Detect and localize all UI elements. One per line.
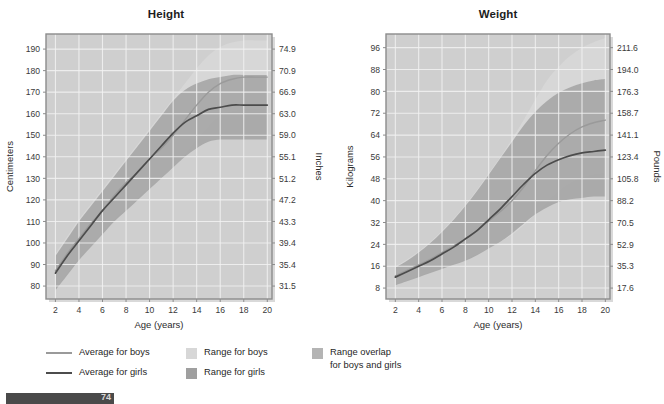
chart-panel-height: Height 246810121416182080901001101201301… [0,0,332,340]
svg-text:16: 16 [554,305,564,315]
svg-text:64: 64 [370,130,380,140]
svg-text:150: 150 [26,130,41,140]
svg-text:66.9: 66.9 [279,87,296,97]
legend-label: Average for girls [79,364,147,379]
svg-text:170: 170 [26,87,41,97]
legend-group-averages: Average for boys Average for girls [46,344,186,384]
svg-text:10: 10 [145,305,155,315]
svg-text:39.4: 39.4 [279,238,296,248]
svg-text:Age (years): Age (years) [473,319,522,330]
legend-label: Range for boys [204,344,268,359]
svg-text:52.9: 52.9 [617,240,634,250]
svg-text:88: 88 [370,65,380,75]
color-swatch-icon [186,368,197,379]
color-swatch-icon [186,348,197,359]
svg-text:Age (years): Age (years) [134,319,183,330]
svg-text:Centimeters: Centimeters [4,141,15,192]
legend-label: Average for boys [79,344,150,359]
svg-text:Pounds: Pounds [652,150,663,182]
line-swatch-icon [46,368,72,378]
line-swatch-icon [46,348,72,358]
svg-text:74.9: 74.9 [279,44,296,54]
svg-text:141.1: 141.1 [617,130,639,140]
legend-group-ranges: Range for boys Range for girls [186,344,312,384]
svg-text:10: 10 [484,305,494,315]
svg-text:35.3: 35.3 [617,261,634,271]
svg-text:24: 24 [370,240,380,250]
svg-text:105.8: 105.8 [617,174,639,184]
svg-text:110: 110 [26,217,40,227]
page-number: 74 [101,392,111,402]
svg-text:180: 180 [26,66,41,76]
legend-item-range-boys: Range for boys [186,344,312,363]
legend-item-range-overlap: Range overlap for boys and girls [312,344,492,378]
page-footer-strip: 74 [6,393,114,404]
svg-text:47.2: 47.2 [279,195,296,205]
svg-text:4: 4 [77,305,82,315]
svg-text:20: 20 [601,305,611,315]
svg-text:100: 100 [26,238,41,248]
svg-text:17.6: 17.6 [617,283,634,293]
svg-text:8: 8 [463,305,468,315]
legend-item-average-boys: Average for boys [46,344,186,363]
svg-text:190: 190 [26,44,41,54]
svg-text:12: 12 [168,305,178,315]
svg-text:14: 14 [531,305,541,315]
svg-text:90: 90 [30,260,40,270]
svg-text:211.6: 211.6 [617,43,638,53]
legend-label: Range for girls [204,364,265,379]
svg-text:160: 160 [26,109,41,119]
svg-text:55.1: 55.1 [279,152,296,162]
chart-panel-weight: Weight 246810121416182081624324048566472… [332,0,664,340]
svg-text:51.2: 51.2 [279,174,296,184]
height-chart-plot: 2468101214161820809010011012013014015016… [0,0,332,340]
svg-text:43.3: 43.3 [279,217,296,227]
svg-text:176.3: 176.3 [617,87,639,97]
svg-text:70.5: 70.5 [617,218,634,228]
svg-text:8: 8 [375,283,380,293]
legend-group-overlap: Range overlap for boys and girls [312,344,492,379]
svg-text:80: 80 [30,281,40,291]
chart-legend: Average for boys Average for girls Range… [0,344,664,390]
svg-text:18: 18 [239,305,249,315]
weight-chart-plot: 2468101214161820816243240485664728088961… [332,0,664,340]
svg-text:140: 140 [26,152,41,162]
svg-text:72: 72 [370,108,380,118]
svg-text:2: 2 [53,305,58,315]
svg-text:63.0: 63.0 [279,109,296,119]
svg-text:2: 2 [393,305,398,315]
svg-text:14: 14 [192,305,202,315]
svg-text:70.9: 70.9 [279,66,296,76]
svg-text:Inches: Inches [314,153,325,181]
svg-text:194.0: 194.0 [617,65,639,75]
svg-text:20: 20 [263,305,273,315]
svg-text:Kilograms: Kilograms [344,145,355,187]
svg-text:48: 48 [370,174,380,184]
svg-text:35.4: 35.4 [279,260,296,270]
legend-item-range-girls: Range for girls [186,364,312,383]
svg-text:12: 12 [507,305,517,315]
svg-text:16: 16 [215,305,225,315]
svg-text:18: 18 [577,305,587,315]
legend-item-average-girls: Average for girls [46,364,186,383]
growth-charts-figure: Height 246810121416182080901001101201301… [0,0,664,404]
svg-text:31.5: 31.5 [279,281,296,291]
svg-text:120: 120 [26,195,41,205]
svg-text:158.7: 158.7 [617,108,639,118]
color-swatch-icon [312,348,323,359]
legend-label: Range overlap for boys and girls [330,344,401,371]
svg-text:6: 6 [440,305,445,315]
svg-text:96: 96 [370,43,380,53]
svg-text:40: 40 [370,196,380,206]
svg-text:80: 80 [370,87,380,97]
svg-text:4: 4 [416,305,421,315]
svg-text:8: 8 [124,305,129,315]
svg-text:88.2: 88.2 [617,196,634,206]
svg-text:32: 32 [370,218,380,228]
svg-text:6: 6 [100,305,105,315]
svg-text:59.0: 59.0 [279,130,296,140]
svg-text:130: 130 [26,174,41,184]
svg-text:123.4: 123.4 [617,152,639,162]
svg-text:56: 56 [370,152,380,162]
svg-text:16: 16 [370,261,380,271]
